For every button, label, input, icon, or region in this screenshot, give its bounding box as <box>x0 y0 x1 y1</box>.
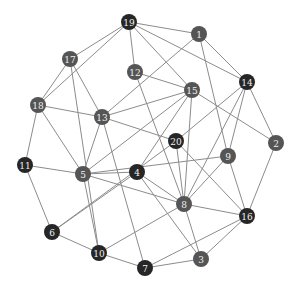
node-17: 17 <box>62 51 78 67</box>
edge-13-20 <box>102 117 176 141</box>
node-label: 13 <box>96 113 108 123</box>
edge-9-8 <box>184 156 228 204</box>
edge-11-5 <box>25 165 83 174</box>
edge-15-13 <box>102 90 192 117</box>
edge-19-18 <box>38 22 129 105</box>
edge-16-3 <box>201 216 247 259</box>
node-label: 16 <box>241 212 253 222</box>
edge-1-13 <box>102 34 199 117</box>
node-label: 20 <box>170 137 182 147</box>
edge-2-16 <box>247 143 276 216</box>
edge-19-14 <box>129 22 247 82</box>
edge-1-9 <box>199 34 228 156</box>
node-4: 4 <box>129 164 145 180</box>
node-11: 11 <box>17 157 33 173</box>
edge-19-17 <box>70 22 129 59</box>
edge-15-8 <box>184 90 192 204</box>
node-label: 7 <box>142 264 148 274</box>
edge-13-5 <box>83 117 102 174</box>
node-13: 13 <box>94 109 110 125</box>
node-10: 10 <box>91 245 107 261</box>
node-14: 14 <box>239 74 255 90</box>
node-label: 3 <box>198 255 204 265</box>
node-12: 12 <box>127 64 143 80</box>
edge-8-10 <box>99 204 184 253</box>
node-label: 14 <box>241 78 253 88</box>
node-label: 10 <box>93 249 105 259</box>
node-label: 12 <box>129 68 140 78</box>
node-6: 6 <box>44 224 60 240</box>
node-16: 16 <box>239 208 255 224</box>
edge-4-3 <box>137 172 201 259</box>
node-15: 15 <box>184 82 200 98</box>
node-label: 17 <box>64 55 76 65</box>
node-label: 6 <box>49 228 55 238</box>
edge-19-1 <box>129 22 199 34</box>
node-label: 2 <box>273 139 279 149</box>
node-label: 4 <box>134 168 140 178</box>
node-1: 1 <box>191 26 207 42</box>
edge-18-13 <box>38 105 102 117</box>
edge-18-5 <box>38 105 83 174</box>
edge-9-5 <box>83 156 228 174</box>
node-18: 18 <box>30 97 46 113</box>
node-label: 15 <box>186 86 198 96</box>
edge-4-8 <box>137 172 184 204</box>
edge-8-3 <box>184 204 201 259</box>
node-19: 19 <box>121 14 137 30</box>
node-5: 5 <box>75 166 91 182</box>
graph-diagram: 1234567891011121314151617181920 <box>0 0 299 293</box>
edge-5-10 <box>83 174 99 253</box>
edge-9-16 <box>228 156 247 216</box>
node-label: 1 <box>196 30 202 40</box>
node-label: 11 <box>19 161 30 171</box>
node-20: 20 <box>168 133 184 149</box>
edge-17-18 <box>38 59 70 105</box>
edge-15-5 <box>83 90 192 174</box>
edge-18-11 <box>25 105 38 165</box>
node-label: 8 <box>181 200 187 210</box>
node-2: 2 <box>268 135 284 151</box>
node-8: 8 <box>176 196 192 212</box>
node-label: 18 <box>32 101 44 111</box>
node-label: 5 <box>80 170 86 180</box>
node-7: 7 <box>137 260 153 276</box>
edge-17-10 <box>70 59 99 253</box>
node-9: 9 <box>220 148 236 164</box>
edge-1-14 <box>199 34 247 82</box>
node-label: 9 <box>225 152 231 162</box>
node-3: 3 <box>193 251 209 267</box>
edge-11-6 <box>25 165 52 232</box>
nodes-layer: 1234567891011121314151617181920 <box>17 14 284 276</box>
node-label: 19 <box>123 18 135 28</box>
